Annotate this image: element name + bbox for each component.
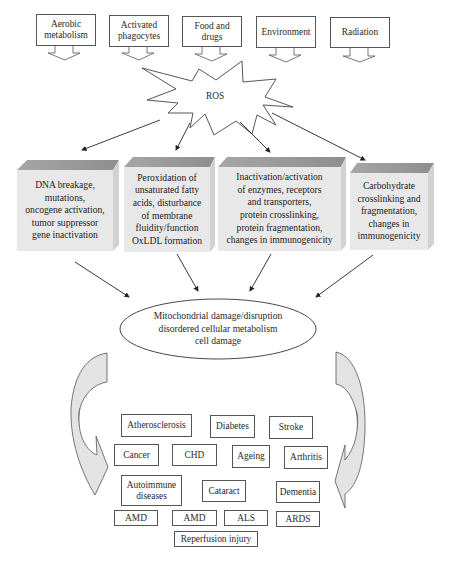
disease-chd: CHD: [172, 444, 217, 466]
effect-carbohydrate-damage: Carbohydrate crosslinking and fragmentat…: [350, 173, 428, 250]
effect-lipid-peroxidation: Peroxidation of unsaturated fatty acids,…: [124, 167, 210, 252]
disease-stroke: Stroke: [269, 416, 313, 439]
disease-als: ALS: [224, 510, 268, 526]
source-label: Food and drugs: [182, 16, 242, 47]
disease-cancer: Cancer: [114, 444, 159, 466]
down-arrow-icon: [269, 47, 301, 62]
source-label: Aerobic metabolism: [36, 14, 96, 46]
disease-amd: AMD: [172, 510, 217, 526]
curved-arrow-left: [71, 353, 108, 495]
source-arrows: [48, 45, 375, 62]
disease-dementia: Dementia: [276, 481, 320, 503]
source-label: Environment: [256, 16, 316, 48]
down-arrow-icon: [195, 46, 227, 61]
disease-ageing: Ageing: [232, 445, 270, 468]
disease-autoimmune-diseases: Autoimmune diseases: [121, 475, 182, 506]
down-arrow-icon: [122, 45, 154, 60]
effect-protein-damage: Inactivation/activation of enzymes, rece…: [218, 167, 341, 251]
disease-atherosclerosis: Atherosclerosis: [121, 414, 192, 437]
down-arrow-icon: [48, 45, 80, 60]
disease-diabetes: Diabetes: [210, 415, 255, 438]
disease-cataract: Cataract: [202, 480, 246, 502]
ros-label: ROS: [195, 88, 235, 104]
outcome-label: Mitochondrial damage/disruption disorder…: [125, 305, 311, 353]
disease-amd: AMD: [114, 510, 158, 526]
source-label: Radiation: [330, 17, 390, 48]
diagram-canvas: [0, 0, 449, 563]
disease-ards: ARDS: [276, 511, 320, 527]
source-label: Activated phagocytes: [109, 15, 169, 47]
disease-reperfusion-injury: Reperfusion injury: [174, 531, 258, 547]
curved-arrow-right: [335, 352, 365, 508]
effect-dna-damage: DNA breakage, mutations, oncogene activa…: [17, 170, 113, 251]
down-arrow-icon: [343, 48, 375, 62]
disease-arthritis: Arthritis: [284, 446, 328, 469]
